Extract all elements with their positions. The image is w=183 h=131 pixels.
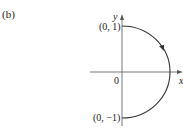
semicircle-diagram <box>0 0 183 131</box>
x-axis-label: x <box>179 76 183 86</box>
point-label-top: (0, 1) <box>99 22 121 32</box>
origin-label: 0 <box>114 76 119 86</box>
point-label-bottom: (0, −1) <box>93 113 120 123</box>
direction-arrow-icon <box>159 45 164 51</box>
y-axis-arrow-icon <box>120 14 124 20</box>
x-axis-arrow-icon <box>177 70 183 74</box>
